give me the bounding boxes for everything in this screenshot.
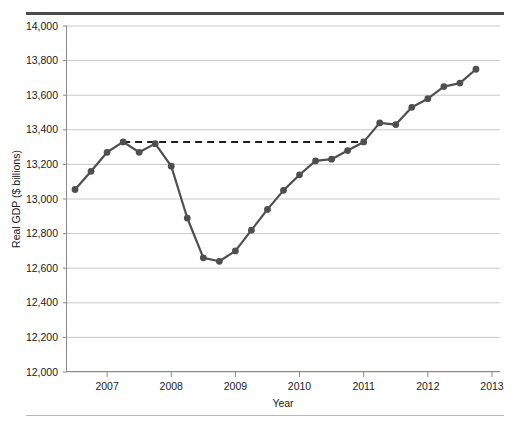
series-polyline	[75, 69, 476, 261]
gdp-series-line	[75, 69, 476, 261]
y-axis-title: Real GDP ($ billions)	[10, 150, 22, 248]
y-tick-label: 13,000	[26, 193, 58, 205]
x-tick-label: 2012	[416, 380, 440, 392]
data-point-marker	[152, 140, 159, 147]
x-axis-tick-labels: 2007200820092010201120122013	[95, 380, 503, 392]
gdp-line-chart: 12,00012,20012,40012,60012,80013,00013,2…	[0, 0, 521, 426]
gridlines	[63, 26, 500, 372]
x-tick-label: 2009	[224, 380, 248, 392]
y-tick-label: 12,000	[26, 366, 58, 378]
data-point-marker	[376, 119, 383, 126]
data-point-marker	[473, 66, 480, 73]
x-tick-label: 2013	[480, 380, 504, 392]
data-point-marker	[200, 254, 207, 261]
data-point-marker	[216, 258, 223, 265]
x-tick-label: 2010	[288, 380, 312, 392]
x-axis-title: Year	[272, 397, 294, 409]
data-point-marker	[168, 163, 175, 170]
y-tick-label: 12,600	[26, 262, 58, 274]
data-point-marker	[232, 248, 239, 255]
y-tick-label: 13,600	[26, 89, 58, 101]
data-point-marker	[457, 80, 464, 87]
data-point-marker	[120, 139, 127, 146]
data-point-marker	[440, 83, 447, 90]
data-point-marker	[72, 186, 79, 193]
x-tick-label: 2011	[352, 380, 375, 392]
data-point-marker	[296, 171, 303, 178]
y-tick-label: 12,200	[26, 331, 58, 343]
x-axis-ticks	[107, 372, 492, 377]
data-point-marker	[184, 215, 191, 222]
x-tick-label: 2007	[95, 380, 119, 392]
footer-rule	[26, 415, 504, 416]
data-point-marker	[104, 149, 111, 156]
y-tick-label: 13,200	[26, 158, 58, 170]
data-point-marker	[328, 156, 335, 163]
y-axis-tick-labels: 12,00012,20012,40012,60012,80013,00013,2…	[26, 20, 58, 378]
y-tick-label: 14,000	[26, 20, 58, 32]
data-point-marker	[408, 104, 415, 111]
data-point-marker	[360, 139, 367, 146]
data-point-marker	[88, 168, 95, 175]
chart-svg: 12,00012,20012,40012,60012,80013,00013,2…	[0, 0, 521, 426]
x-tick-label: 2008	[160, 380, 184, 392]
data-point-marker	[248, 227, 255, 234]
y-tick-label: 12,400	[26, 296, 58, 308]
y-tick-label: 13,400	[26, 123, 58, 135]
y-tick-label: 12,800	[26, 227, 58, 239]
data-point-marker	[312, 158, 319, 165]
data-point-marker	[280, 187, 287, 194]
y-tick-label: 13,800	[26, 54, 58, 66]
data-point-marker	[264, 206, 271, 213]
data-point-marker	[344, 147, 351, 154]
data-point-marker	[136, 149, 143, 156]
data-point-marker	[392, 121, 399, 128]
data-point-marker	[424, 95, 431, 102]
